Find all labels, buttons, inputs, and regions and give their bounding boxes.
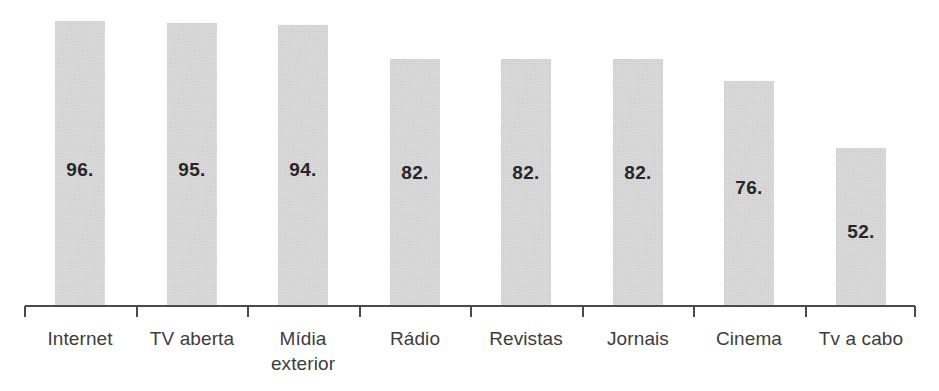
bar-value-label: 76.: [724, 178, 774, 197]
bar-value-label: 52.: [836, 222, 886, 241]
bar: 76.: [724, 81, 774, 306]
category-label: Mídia exterior: [247, 326, 359, 376]
bar-value-label: 95.: [167, 160, 217, 179]
category-label-group: InternetTV abertaMídia exteriorRádioRevi…: [0, 326, 939, 391]
bar: 82.: [613, 59, 663, 306]
bar-value-label: 94.: [278, 160, 328, 179]
category-label: TV aberta: [136, 326, 248, 351]
category-label: Tv a cabo: [805, 326, 917, 351]
bar-value-label: 82.: [613, 163, 663, 182]
bar-value-label: 82.: [501, 163, 551, 182]
bar: 82.: [501, 59, 551, 306]
bar: 95.: [167, 23, 217, 306]
bar: 52.: [836, 148, 886, 306]
bar: 94.: [278, 25, 328, 306]
category-label: Internet: [24, 326, 136, 351]
bar-chart: 96.95.94.82.82.82.76.52. InternetTV aber…: [0, 0, 939, 391]
bar: 82.: [390, 59, 440, 306]
category-label: Rádio: [359, 326, 471, 351]
category-label: Jornais: [582, 326, 694, 351]
bar-value-label: 96.: [55, 160, 105, 179]
plot-area: 96.95.94.82.82.82.76.52.: [0, 0, 939, 306]
bar-value-label: 82.: [390, 163, 440, 182]
category-label: Revistas: [470, 326, 582, 351]
bar: 96.: [55, 21, 105, 306]
category-label: Cinema: [693, 326, 805, 351]
